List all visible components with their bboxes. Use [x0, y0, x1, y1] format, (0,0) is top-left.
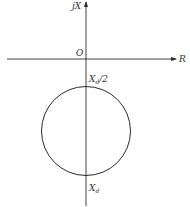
origin-label: O — [76, 48, 84, 58]
impedance-diagram: jX O R Xd/2 Xd — [0, 0, 190, 207]
jx-axis-label: jX — [70, 1, 82, 11]
circle-top-label: Xd/2 — [88, 74, 108, 85]
r-axis-label: R — [178, 54, 186, 64]
circle-bottom-label: Xd — [88, 183, 99, 194]
